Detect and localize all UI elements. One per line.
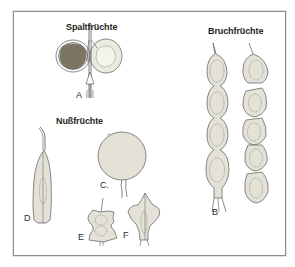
label-e: E: [78, 232, 84, 242]
heading-nussfruechte: Nußfrüchte: [56, 116, 103, 126]
label-a: A: [76, 90, 82, 100]
label-b: B: [212, 207, 218, 217]
fruit-e-winged-nut-illustration: [88, 198, 117, 246]
label-d: D: [24, 213, 31, 223]
fruit-d-achene-illustration: [33, 127, 51, 223]
fruit-b-loment-right-illustration: [243, 43, 268, 203]
label-f: F: [123, 230, 129, 240]
fruit-types-diagram: .o { stroke: #6b6b6b; stroke-width: 0.8;…: [0, 0, 295, 267]
fruit-a-schizocarp-illustration: [56, 24, 122, 98]
heading-spaltfruechte: Spaltfrüchte: [66, 22, 117, 32]
label-c: C.: [100, 180, 109, 190]
fruit-b-loment-left-illustration: [206, 43, 229, 212]
fruit-f-nut-illustration: [128, 193, 160, 246]
fruit-illustrations: .o { stroke: #6b6b6b; stroke-width: 0.8;…: [0, 0, 295, 267]
heading-bruchfruechte: Bruchfrüchte: [208, 26, 263, 36]
